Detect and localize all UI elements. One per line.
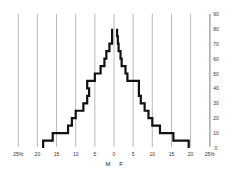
y-tick-label: 0 [215,145,218,151]
x-axis-tick-labels: 25%20151050510152025% [13,151,215,157]
x-tick-label: 25% [13,151,24,157]
y-tick-label: 30 [213,100,219,106]
x-tick-label: 15 [54,151,60,157]
female-series-step-line [117,29,189,148]
x-tick-label: 5 [132,151,135,157]
y-tick-label: 60 [213,56,219,62]
vertical-gridlines [18,14,210,147]
x-tick-label: 5 [93,151,96,157]
x-tick-label: 25% [205,151,216,157]
y-tick-label: 20 [213,115,219,121]
x-tick-label: 20 [188,151,194,157]
y-tick-label: 90 [213,11,219,17]
y-axis: 0102030405060708090 [210,11,219,151]
x-tick-label: 10 [150,151,156,157]
male-series-step-line [43,29,112,148]
male-label: M [106,161,111,167]
y-tick-label: 40 [213,85,219,91]
female-label: F [119,161,123,167]
x-tick-label: 0 [113,151,116,157]
y-tick-label: 70 [213,41,219,47]
x-tick-label: 10 [73,151,79,157]
y-tick-label: 50 [213,71,219,77]
x-tick-label: 15 [169,151,175,157]
y-tick-label: 10 [213,130,219,136]
y-tick-label: 80 [213,26,219,32]
population-pyramid-chart: 0102030405060708090 25%20151050510152025… [0,0,229,172]
x-tick-label: 20 [35,151,41,157]
